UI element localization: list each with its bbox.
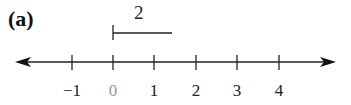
tick-label: −1 (63, 81, 81, 101)
tick-label: 2 (192, 81, 201, 101)
tick-label: 3 (233, 81, 242, 101)
tick-label: 4 (275, 81, 284, 101)
tick-label: 1 (150, 81, 159, 101)
length-bracket (113, 25, 172, 40)
tick-label: 0 (109, 81, 118, 101)
number-line-diagram (0, 0, 351, 105)
